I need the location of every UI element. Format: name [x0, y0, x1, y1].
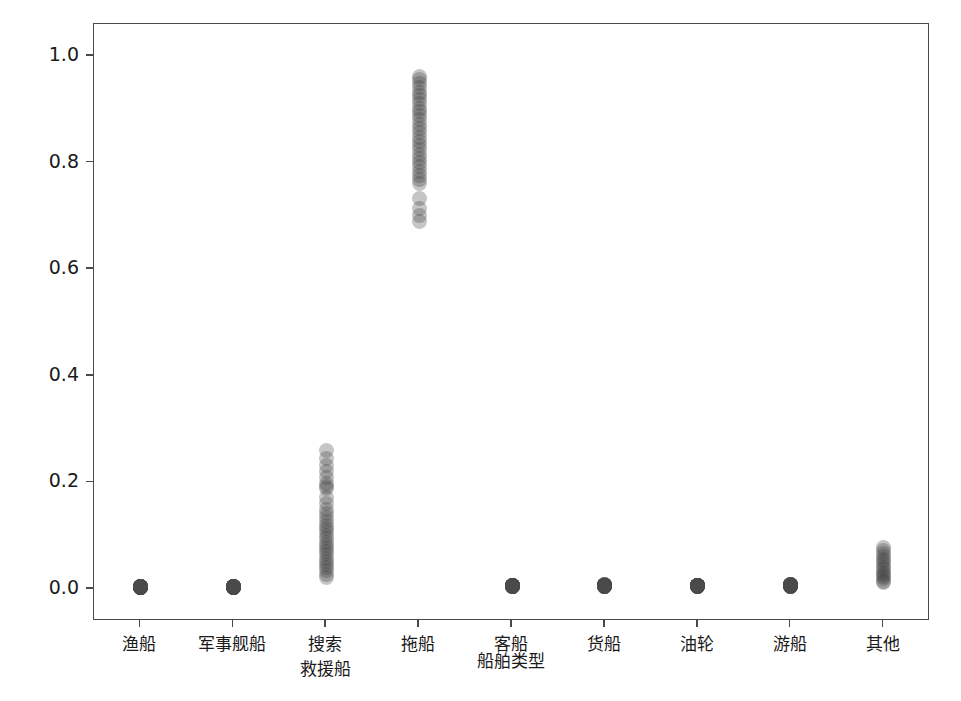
x-axis-tick-mark — [882, 620, 884, 627]
y-axis-tick-label: 0.4 — [49, 363, 79, 385]
y-axis-tick-label: 0.6 — [49, 256, 79, 278]
x-axis-tick-mark — [139, 620, 141, 627]
y-axis-tick-label: 0.8 — [49, 150, 79, 172]
scatter-chart-figure: 识别结果概率 0.00.20.40.60.81.0 渔船军事舰船搜索 救援船拖船… — [0, 0, 961, 701]
data-point — [690, 578, 705, 593]
y-axis-tick-mark — [86, 161, 93, 163]
x-axis-tick-mark — [789, 620, 791, 627]
x-axis-tick-mark — [696, 620, 698, 627]
y-axis-tick-label: 0.2 — [49, 469, 79, 491]
data-point — [226, 579, 241, 594]
x-axis-title: 船舶类型 — [93, 647, 929, 672]
x-axis-tick-mark — [603, 620, 605, 627]
data-point — [876, 575, 891, 590]
data-point — [412, 176, 427, 191]
x-axis-tick-mark — [232, 620, 234, 627]
y-axis-tick-label: 1.0 — [49, 43, 79, 65]
data-point — [505, 579, 520, 594]
y-axis-tick: 0.0 — [0, 588, 93, 589]
y-axis-tick: 0.6 — [0, 268, 93, 269]
y-axis-tick: 0.4 — [0, 375, 93, 376]
data-point — [133, 580, 148, 595]
y-axis-tick: 0.8 — [0, 162, 93, 163]
plot-area — [93, 23, 929, 620]
x-axis-tick-mark — [324, 620, 326, 627]
y-axis-tick-mark — [86, 374, 93, 376]
y-axis-tick-mark — [86, 54, 93, 56]
y-axis-tick: 0.2 — [0, 481, 93, 482]
y-axis-tick-label: 0.0 — [49, 576, 79, 598]
y-axis-tick-mark — [86, 267, 93, 269]
data-point — [319, 570, 334, 585]
y-axis-tick: 1.0 — [0, 55, 93, 56]
x-axis-tick-mark — [417, 620, 419, 627]
data-point — [412, 214, 427, 229]
y-axis-tick-mark — [86, 481, 93, 483]
x-axis-tick-mark — [510, 620, 512, 627]
y-axis-tick-mark — [86, 587, 93, 589]
